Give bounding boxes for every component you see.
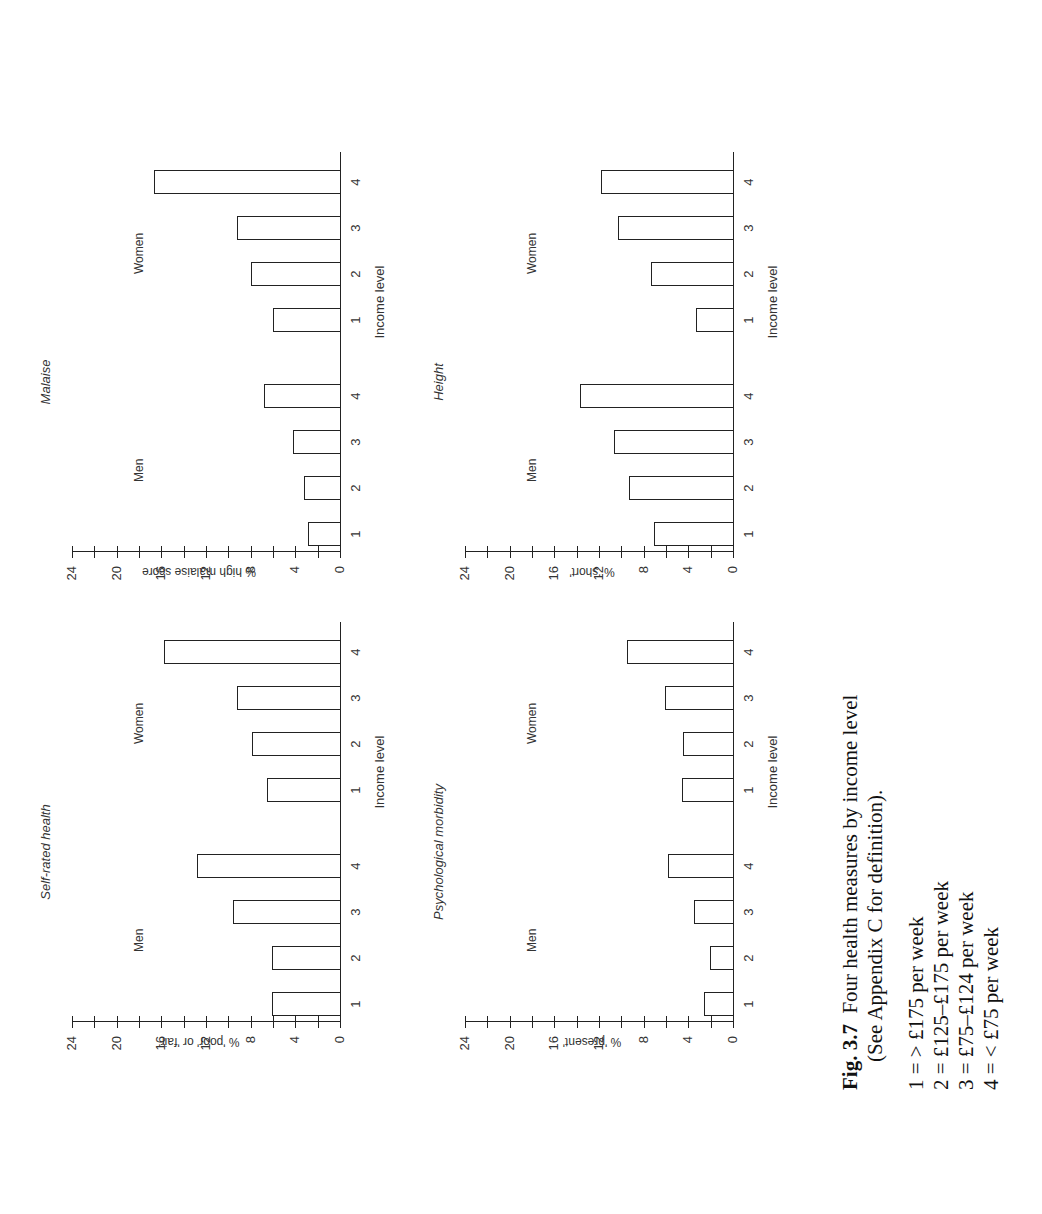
bar-women-income-2 [651,262,733,286]
group-label-women: Women [525,703,539,744]
y-tick [621,1016,622,1028]
y-tick [295,1016,296,1028]
category-label: 3 [741,430,756,454]
y-tick-label: 0 [725,566,740,596]
figure-subtitle: (See Appendix C for definition). [863,530,888,1090]
y-tick [72,546,73,558]
y-axis-label: % 'short' [492,565,692,579]
category-label: 4 [348,640,363,664]
bar-women-income-2 [683,732,733,756]
y-tick-label: 24 [64,566,79,596]
bar-women-income-3 [237,686,340,710]
y-tick [94,1016,95,1028]
y-tick [644,1016,645,1028]
group-label-men: Men [525,929,539,952]
bar-men-income-3 [233,900,340,924]
x-axis-baseline [340,622,341,1022]
y-tick [577,1016,578,1028]
category-label: 3 [741,216,756,240]
figure-label: Fig. 3.7 [838,1024,862,1090]
y-tick [273,546,274,558]
y-tick [206,1016,207,1028]
chart-malaise: Malaise04812162024% high malaise score12… [32,142,372,622]
plot-area: 04812162024% 'poor' or 'fair'12341234Men… [72,622,340,1022]
bar-men-income-4 [264,384,340,408]
y-tick [465,1016,466,1028]
y-tick [577,546,578,558]
category-label: 3 [741,686,756,710]
bar-men-income-3 [694,900,733,924]
category-label: 4 [348,384,363,408]
y-tick [666,546,667,558]
group-label-women: Women [132,233,146,274]
y-tick [161,546,162,558]
chart-title: Self-rated health [38,612,53,1092]
bar-women-income-3 [618,216,733,240]
category-label: 3 [741,900,756,924]
bar-men-income-1 [654,522,733,546]
y-tick [251,546,252,558]
category-label: 1 [741,308,756,332]
y-tick [688,546,689,558]
y-tick [688,1016,689,1028]
y-tick [666,1016,667,1028]
chart-title: Malaise [38,142,53,622]
chart-height: Height04812162024% 'short'12341234MenWom… [425,142,765,622]
category-label: 1 [348,992,363,1016]
bar-women-income-1 [696,308,733,332]
y-tick [139,546,140,558]
group-label-men: Men [132,929,146,952]
y-tick [487,1016,488,1028]
category-label: 2 [741,946,756,970]
figure-title: Four health measures by income level [838,695,862,1014]
caption-title-line: Fig. 3.7 Four health measures by income … [838,530,863,1090]
plot-area: 04812162024% 'short'12341234MenWomenInco… [465,152,733,552]
y-tick [465,546,466,558]
group-label-men: Men [525,459,539,482]
y-tick [117,546,118,558]
y-tick-label: 0 [332,566,347,596]
y-tick-label: 24 [64,1036,79,1066]
y-tick [94,546,95,558]
y-tick [510,546,511,558]
y-tick [532,1016,533,1028]
y-tick [340,546,341,558]
y-tick [161,1016,162,1028]
y-tick [318,1016,319,1028]
y-tick [273,1016,274,1028]
y-tick-label: 24 [457,566,472,596]
y-axis-label: % high malaise score [99,565,299,579]
figure-caption: Fig. 3.7 Four health measures by income … [838,530,1004,1090]
y-tick [295,546,296,558]
bar-women-income-4 [627,640,733,664]
plot-area: 04812162024% high malaise score12341234M… [72,152,340,552]
bar-men-income-3 [614,430,733,454]
group-label-men: Men [132,459,146,482]
y-tick [644,546,645,558]
category-label: 4 [741,854,756,878]
bar-men-income-1 [704,992,733,1016]
y-tick [206,546,207,558]
y-tick-label: 0 [332,1036,347,1066]
y-tick [532,546,533,558]
chart-title: Height [431,142,446,622]
y-tick [554,1016,555,1028]
bar-women-income-3 [237,216,340,240]
y-tick [72,1016,73,1028]
group-label-women: Women [132,703,146,744]
legend-item: 3 = £75–£124 per week [954,530,979,1090]
plot-area: 04812162024% 'present'12341234MenWomenIn… [465,622,733,1022]
y-tick [251,1016,252,1028]
y-tick [139,1016,140,1028]
category-label: 3 [348,900,363,924]
bar-women-income-1 [273,308,340,332]
x-axis-baseline [340,152,341,552]
bar-women-income-2 [251,262,340,286]
category-label: 4 [741,170,756,194]
bar-men-income-2 [272,946,340,970]
y-tick-label: 24 [457,1036,472,1066]
bar-men-income-3 [293,430,340,454]
chart-psychological-morbidity: Psychological morbidity04812162024% 'pre… [425,612,765,1092]
chart-self-rated-health: Self-rated health04812162024% 'poor' or … [32,612,372,1092]
category-label: 1 [741,992,756,1016]
